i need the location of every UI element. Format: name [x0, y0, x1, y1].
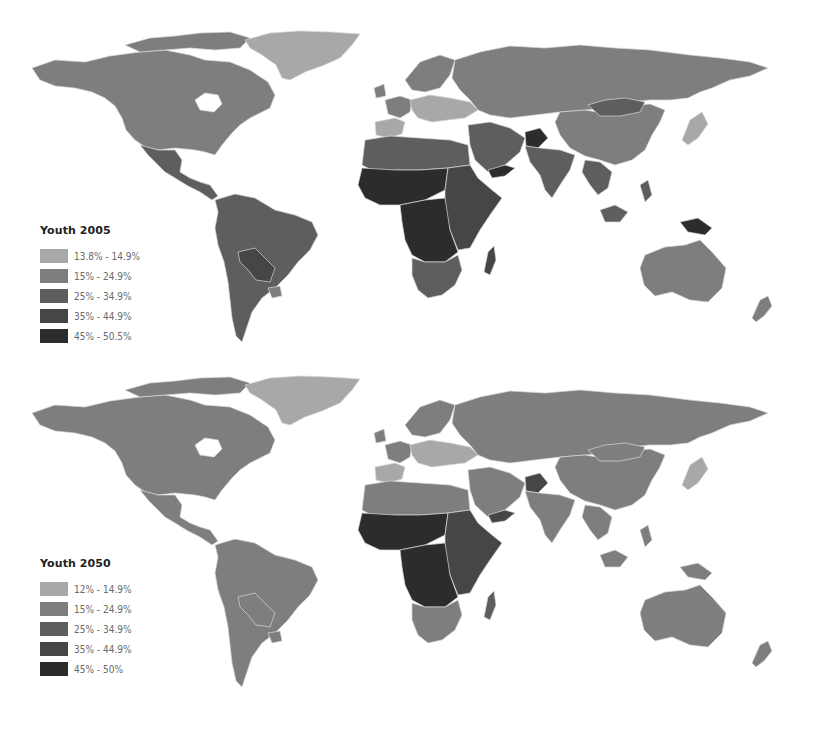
region-mexico-central-america: [140, 145, 218, 200]
region-uruguay: [268, 631, 282, 643]
region-madagascar: [484, 591, 496, 620]
region-uruguay: [268, 286, 282, 298]
legend-item: 15% - 24.9%: [40, 266, 140, 286]
region-middle-east: [468, 467, 525, 517]
region-arctic-islands: [125, 32, 250, 52]
region-australia: [640, 585, 726, 647]
region-new-zealand: [752, 641, 772, 667]
legend-label: 45% - 50.5%: [74, 331, 132, 342]
region-central-europe: [410, 440, 478, 467]
legend-item: 25% - 34.9%: [40, 286, 140, 306]
legend-item: 25% - 34.9%: [40, 619, 132, 639]
region-south-asia: [525, 146, 575, 198]
legend-label: 45% - 50%: [74, 664, 123, 675]
legend-swatch: [40, 642, 68, 656]
region-new-guinea: [680, 563, 712, 580]
legend-label: 15% - 24.9%: [74, 604, 132, 615]
legend-swatch: [40, 582, 68, 596]
legend-swatch: [40, 329, 68, 343]
region-iberia: [375, 118, 405, 138]
region-afghanistan: [525, 473, 548, 493]
region-north-africa: [362, 136, 470, 172]
region-canada-usa: [32, 395, 275, 500]
legend-swatch: [40, 309, 68, 323]
legend-item: 12% - 14.9%: [40, 579, 132, 599]
region-south-asia: [525, 491, 575, 543]
region-australia: [640, 240, 726, 302]
legend-youth-2005: Youth 2005 13.8% - 14.9% 15% - 24.9% 25%…: [40, 224, 140, 346]
region-canada-usa: [32, 50, 275, 155]
region-madagascar: [484, 246, 496, 275]
legend-swatch: [40, 269, 68, 283]
legend-label: 12% - 14.9%: [74, 584, 132, 595]
legend-item: 15% - 24.9%: [40, 599, 132, 619]
region-iberia: [375, 463, 405, 483]
region-middle-east: [468, 122, 525, 172]
legend-label: 35% - 44.9%: [74, 644, 132, 655]
map-youth-2050: Youth 2050 12% - 14.9% 15% - 24.9% 25% -…: [0, 345, 840, 705]
region-new-guinea: [680, 218, 712, 235]
legend-label: 35% - 44.9%: [74, 311, 132, 322]
region-japan: [682, 457, 708, 490]
legend-title: Youth 2005: [40, 224, 140, 237]
legend-label: 13.8% - 14.9%: [74, 251, 140, 262]
legend-swatch: [40, 602, 68, 616]
region-north-africa: [362, 481, 470, 517]
legend-item: 45% - 50%: [40, 659, 132, 679]
legend-item: 35% - 44.9%: [40, 306, 140, 326]
region-central-europe: [410, 95, 478, 122]
region-greenland: [245, 376, 360, 425]
legend-swatch: [40, 622, 68, 636]
legend-swatch: [40, 249, 68, 263]
legend-item: 35% - 44.9%: [40, 639, 132, 659]
region-japan: [682, 112, 708, 145]
legend-swatch: [40, 662, 68, 676]
region-mexico-central-america: [140, 490, 218, 545]
legend-item: 13.8% - 14.9%: [40, 246, 140, 266]
region-southeast-asia: [582, 160, 652, 222]
legend-label: 25% - 34.9%: [74, 624, 132, 635]
region-arctic-islands: [125, 377, 250, 397]
region-southeast-asia: [582, 505, 652, 567]
legend-swatch: [40, 289, 68, 303]
region-new-zealand: [752, 296, 772, 322]
legend-item: 45% - 50.5%: [40, 326, 140, 346]
legend-title: Youth 2050: [40, 557, 132, 570]
legend-label: 25% - 34.9%: [74, 291, 132, 302]
legend-youth-2050: Youth 2050 12% - 14.9% 15% - 24.9% 25% -…: [40, 557, 132, 679]
map-youth-2005: Youth 2005 13.8% - 14.9% 15% - 24.9% 25%…: [0, 0, 840, 360]
legend-label: 15% - 24.9%: [74, 271, 132, 282]
region-greenland: [245, 31, 360, 80]
region-afghanistan: [525, 128, 548, 148]
